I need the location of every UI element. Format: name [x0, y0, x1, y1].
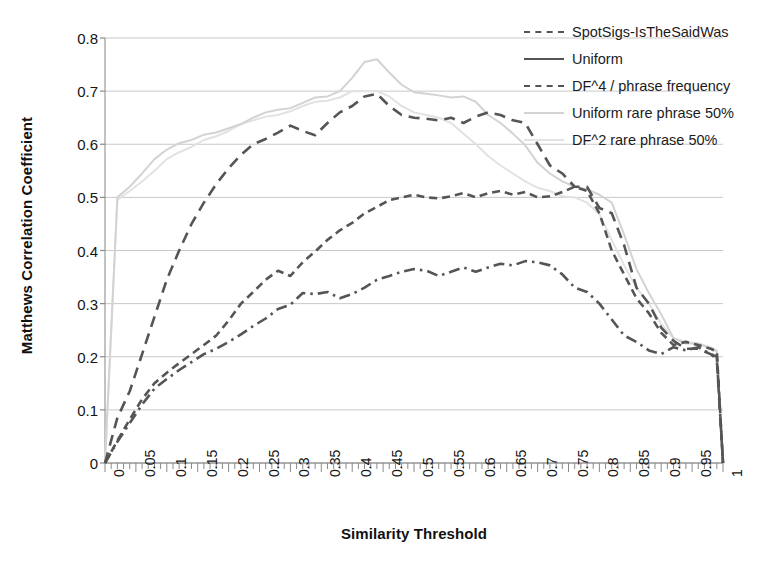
x-tick-label: 0.3 — [296, 458, 312, 477]
x-tick-label: 0.8 — [605, 458, 621, 477]
x-tick-label: 0.6 — [482, 458, 498, 477]
x-tick-label: 0.15 — [204, 450, 220, 477]
x-tick-label: 0.55 — [451, 450, 467, 477]
legend-item: Uniform — [524, 45, 772, 72]
x-tick-label: 0.85 — [636, 450, 652, 477]
chart-legend: SpotSigs-IsTheSaidWasUniformDF^4 / phras… — [524, 18, 772, 153]
legend-swatch-icon — [524, 80, 564, 92]
x-tick-label: 0.65 — [513, 450, 529, 477]
x-tick-label: 0.2 — [235, 458, 251, 477]
legend-label: DF^2 rare phrase 50% — [572, 132, 717, 148]
x-axis-title-wrap: Similarity Threshold — [105, 525, 723, 543]
legend-item: SpotSigs-IsTheSaidWas — [524, 18, 772, 45]
legend-item: DF^4 / phrase frequency — [524, 72, 772, 99]
x-tick-label: 0 — [111, 469, 127, 477]
x-axis-title: Similarity Threshold — [341, 525, 487, 542]
x-tick-label: 0.5 — [420, 458, 436, 477]
x-tick-label: 0.75 — [575, 450, 591, 477]
legend-swatch-icon — [524, 107, 564, 119]
legend-swatch-icon — [524, 134, 564, 146]
x-tick-label: 0.45 — [389, 450, 405, 477]
legend-label: DF^4 / phrase frequency — [572, 78, 730, 94]
legend-swatch-icon — [524, 26, 564, 38]
legend-label: Uniform — [572, 51, 623, 67]
x-tick-label: 0.25 — [266, 450, 282, 477]
legend-label: Uniform rare phrase 50% — [572, 105, 734, 121]
x-tick-label: 0.95 — [698, 450, 714, 477]
x-tick-label: 0.35 — [327, 450, 343, 477]
legend-item: Uniform rare phrase 50% — [524, 99, 772, 126]
x-tick-label: 0.1 — [173, 458, 189, 477]
legend-label: SpotSigs-IsTheSaidWas — [572, 24, 729, 40]
x-tick-label: 0.9 — [667, 458, 683, 477]
chart-figure: Matthews Correlation Coefficient 00.10.2… — [0, 0, 775, 564]
x-tick-label: 0.05 — [142, 450, 158, 477]
legend-item: DF^2 rare phrase 50% — [524, 126, 772, 153]
legend-swatch-icon — [524, 53, 564, 65]
x-tick-label: 1 — [729, 469, 745, 477]
x-tick-label: 0.4 — [358, 458, 374, 477]
x-tick-label: 0.7 — [544, 458, 560, 477]
